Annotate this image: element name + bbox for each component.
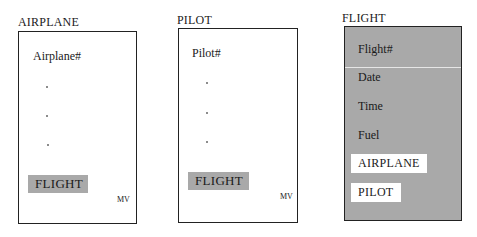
airplane-flight-link[interactable]: FLIGHT — [28, 175, 88, 193]
flight-entity-box: Flight# Date Time Fuel AIRPLANE PILOT — [344, 26, 462, 221]
flight-key-field: Flight# — [358, 42, 393, 57]
ellipsis-dot — [206, 82, 208, 84]
flight-airplane-link[interactable]: AIRPLANE — [351, 154, 427, 173]
airplane-multivalue-label: MV — [117, 195, 130, 204]
pilot-multivalue-label: MV — [280, 192, 293, 201]
ellipsis-dot — [46, 115, 48, 117]
ellipsis-dot — [206, 112, 208, 114]
pilot-entity-box: Pilot# FLIGHT MV — [178, 28, 298, 223]
ellipsis-dot — [47, 144, 49, 146]
flight-field-time: Time — [358, 99, 383, 114]
flight-entity-title: FLIGHT — [342, 11, 386, 26]
airplane-key-field: Airplane# — [33, 49, 81, 64]
airplane-entity-title: AIRPLANE — [18, 15, 79, 30]
pilot-key-field: Pilot# — [192, 46, 221, 61]
airplane-entity-box: Airplane# FLIGHT MV — [18, 31, 137, 224]
key-separator — [345, 67, 461, 68]
pilot-entity-title: PILOT — [177, 13, 212, 28]
flight-field-date: Date — [358, 70, 381, 85]
flight-field-fuel: Fuel — [358, 128, 379, 143]
ellipsis-dot — [206, 141, 208, 143]
flight-pilot-link[interactable]: PILOT — [351, 183, 401, 202]
pilot-flight-link[interactable]: FLIGHT — [188, 172, 249, 190]
ellipsis-dot — [46, 86, 48, 88]
